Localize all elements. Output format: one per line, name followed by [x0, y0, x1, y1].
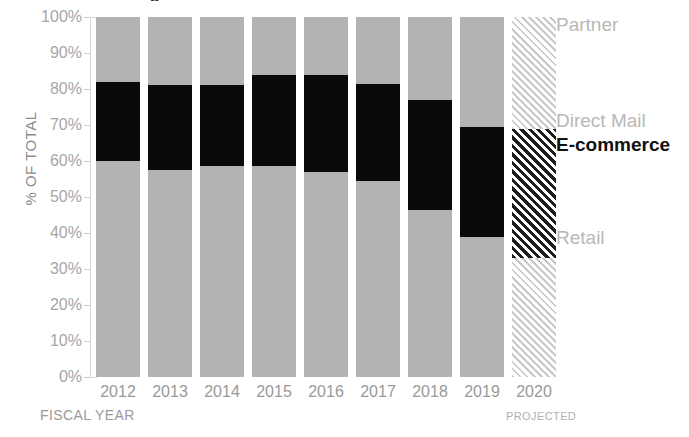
bar-segment-e-commerce[interactable] [96, 82, 140, 161]
bar-segment-retail[interactable] [512, 258, 556, 377]
bar-2012[interactable] [96, 17, 140, 377]
bar-segment-retail[interactable] [304, 172, 348, 377]
bar-segment-partner[interactable] [148, 17, 192, 78]
x-axis-tick-label: 2017 [356, 383, 400, 401]
bar-segment-retail[interactable] [96, 161, 140, 377]
y-axis-tick-mark [84, 17, 90, 18]
y-axis-tick-labels: 100%90%80%70%60%50%40%30%20%10%0% [20, 0, 82, 437]
y-axis-tick-mark [84, 377, 90, 378]
y-axis-cap-bottom [90, 377, 97, 378]
legend-item-direct-mail[interactable]: Direct Mail [556, 110, 646, 132]
bar-segment-direct-mail[interactable] [304, 69, 348, 74]
legend-item-partner[interactable]: Partner [556, 14, 618, 36]
y-axis-tick-label: 80% [30, 81, 82, 97]
legend: PartnerDirect MailE-commerceRetail [556, 0, 689, 437]
bar-2017[interactable] [356, 17, 400, 377]
bar-segment-partner[interactable] [356, 17, 400, 75]
x-axis-tick-label: 2012 [96, 383, 140, 401]
y-axis-tick-mark [84, 125, 90, 126]
bar-segment-e-commerce[interactable] [408, 100, 452, 210]
x-axis-tick-label: 2018 [408, 383, 452, 401]
bar-segment-retail[interactable] [460, 237, 504, 377]
y-axis-tick-label: 60% [30, 153, 82, 169]
x-axis-title: FISCAL YEAR [40, 407, 135, 423]
x-axis-tick-label: 2014 [200, 383, 244, 401]
bar-segment-partner[interactable] [96, 17, 140, 73]
bar-segment-e-commerce[interactable] [200, 85, 244, 166]
bar-segment-partner[interactable] [252, 17, 296, 69]
y-axis-tick-label: 100% [30, 9, 82, 25]
bar-segment-direct-mail[interactable] [148, 78, 192, 85]
bar-segment-e-commerce[interactable] [252, 75, 296, 167]
bar-segment-e-commerce[interactable] [148, 85, 192, 170]
bar-segment-direct-mail[interactable] [200, 78, 244, 85]
bar-segment-direct-mail[interactable] [252, 69, 296, 74]
y-axis-tick-label: 30% [30, 261, 82, 277]
bar-segment-retail[interactable] [356, 181, 400, 377]
x-axis-tick-label: 2019 [460, 383, 504, 401]
x-axis-tick-label: 2020 [512, 383, 556, 401]
y-axis-tick-label: 40% [30, 225, 82, 241]
bar-segment-partner[interactable] [460, 17, 504, 120]
bar-segment-partner[interactable] [512, 17, 556, 129]
y-axis-tick-label: 10% [30, 333, 82, 349]
stacked-bar-chart: s % OF TOTAL 100%90%80%70%60%50%40%30%20… [0, 0, 689, 437]
y-axis-tick-mark [84, 341, 90, 342]
x-axis-tick-label: 2016 [304, 383, 348, 401]
bar-2020[interactable] [512, 17, 556, 377]
bar-segment-retail[interactable] [408, 210, 452, 377]
y-axis-tick-mark [84, 305, 90, 306]
bar-segment-partner[interactable] [408, 17, 452, 93]
x-axis-tick-label: 2013 [148, 383, 192, 401]
y-axis-tick-label: 50% [30, 189, 82, 205]
chart-title-fragment: s [150, 0, 159, 1]
bar-2018[interactable] [408, 17, 452, 377]
bar-segment-direct-mail[interactable] [460, 120, 504, 127]
legend-item-retail[interactable]: Retail [556, 227, 605, 249]
bar-2015[interactable] [252, 17, 296, 377]
bar-segment-direct-mail[interactable] [356, 75, 400, 84]
y-axis-tick-mark [84, 197, 90, 198]
bar-segment-partner[interactable] [200, 17, 244, 78]
legend-item-e-commerce[interactable]: E-commerce [556, 134, 670, 156]
y-axis-tick-label: 70% [30, 117, 82, 133]
bar-segment-e-commerce[interactable] [512, 129, 556, 259]
y-axis-tick-label: 20% [30, 297, 82, 313]
bar-segment-direct-mail[interactable] [96, 73, 140, 82]
y-axis-tick-label: 0% [30, 369, 82, 385]
bar-segment-retail[interactable] [252, 166, 296, 377]
bar-segment-partner[interactable] [304, 17, 348, 69]
x-axis-tick-labels: 201220132014201520162017201820192020 [96, 383, 562, 405]
bar-segment-e-commerce[interactable] [304, 75, 348, 172]
x-axis-tick-label: 2015 [252, 383, 296, 401]
bar-segment-direct-mail[interactable] [408, 93, 452, 100]
y-axis-line [90, 17, 91, 378]
y-axis-tick-mark [84, 89, 90, 90]
y-axis-tick-mark [84, 53, 90, 54]
bar-2019[interactable] [460, 17, 504, 377]
y-axis-tick-mark [84, 233, 90, 234]
y-axis-tick-mark [84, 161, 90, 162]
y-axis-tick-label: 90% [30, 45, 82, 61]
y-axis-tick-mark [84, 269, 90, 270]
bar-segment-e-commerce[interactable] [460, 127, 504, 237]
plot-area [96, 17, 562, 377]
bar-segment-retail[interactable] [148, 170, 192, 377]
bar-segment-retail[interactable] [200, 166, 244, 377]
bar-2016[interactable] [304, 17, 348, 377]
bar-2013[interactable] [148, 17, 192, 377]
bar-2014[interactable] [200, 17, 244, 377]
bar-segment-e-commerce[interactable] [356, 84, 400, 181]
